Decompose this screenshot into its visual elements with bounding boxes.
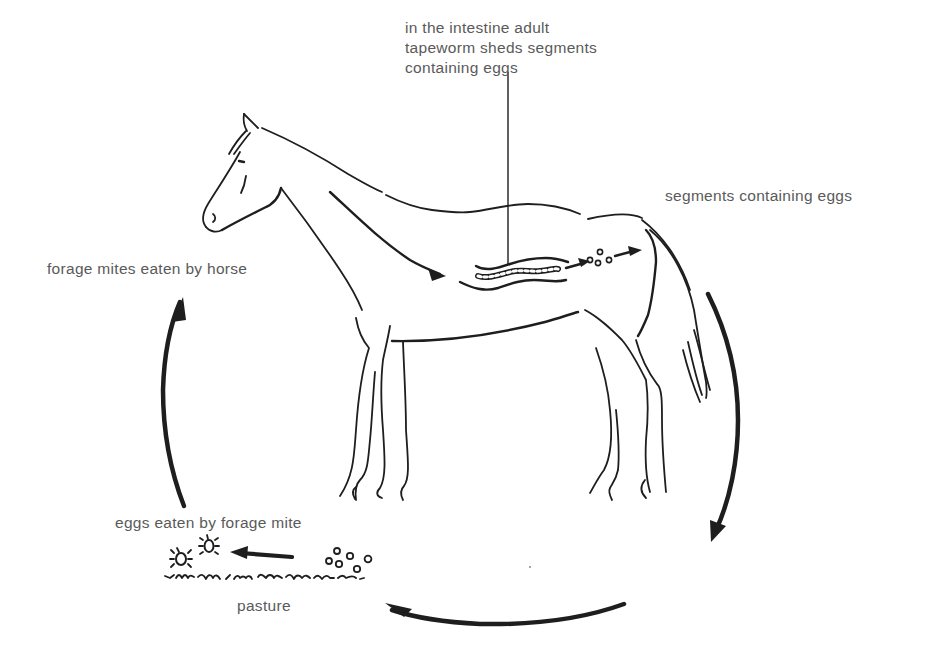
pasture-label: pasture <box>237 596 291 616</box>
intestine-label-line-2: tapeworm sheds segments <box>405 38 597 58</box>
intestine-label-line-1: in the intestine adult <box>405 18 597 38</box>
eggs-eaten-label: eggs eaten by forage mite <box>115 513 302 533</box>
cycle-arrow-icon <box>163 294 738 624</box>
eaten-arrow-icon <box>230 546 292 559</box>
horse-drawing <box>203 114 710 500</box>
scan-dot <box>529 566 531 568</box>
swallow-arrow-icon <box>330 192 446 281</box>
forage-mites-eaten-label: forage mites eaten by horse <box>47 259 247 279</box>
pasture-grass-line <box>165 575 364 579</box>
intestine-label-line-3: containing eggs <box>405 58 597 78</box>
egg-cluster-icon <box>326 548 371 572</box>
segments-label: segments containing eggs <box>665 186 852 206</box>
shed-segments-icon <box>566 246 642 268</box>
tapeworm-icon <box>460 258 568 290</box>
life-cycle-diagram <box>0 0 939 665</box>
forage-mite-icon <box>170 535 219 567</box>
intestine-label: in the intestine adult tapeworm sheds se… <box>405 18 597 78</box>
